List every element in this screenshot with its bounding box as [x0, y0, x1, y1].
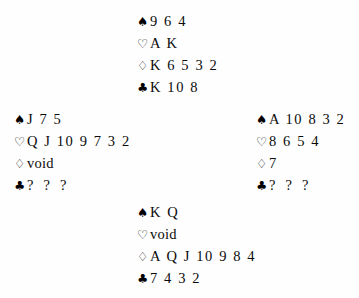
- south-spades: K Q: [150, 205, 179, 220]
- north-clubs: K 10 8: [150, 80, 199, 95]
- hand-west: ♠ J 7 5 ♡ Q J 10 9 7 3 2 ♢ void ♣ ? ? ?: [14, 112, 131, 200]
- west-diamonds: void: [27, 156, 54, 171]
- club-icon: ♣: [137, 82, 150, 95]
- south-club-line: ♣ 7 4 3 2: [137, 271, 256, 293]
- east-club-line: ♣ ? ? ?: [256, 178, 345, 200]
- east-diamond-line: ♢ 7: [256, 156, 345, 178]
- north-spade-line: ♠ 9 6 4: [137, 14, 218, 36]
- diamond-icon: ♢: [137, 251, 150, 264]
- hand-south: ♠ K Q ♡ void ♢ A Q J 10 9 8 4 ♣ 7 4 3 2: [137, 205, 256, 293]
- south-heart-line: ♡ void: [137, 227, 256, 249]
- west-spade-line: ♠ J 7 5: [14, 112, 131, 134]
- hand-east: ♠ A 10 8 3 2 ♡ 8 6 5 4 ♢ 7 ♣ ? ? ?: [256, 112, 345, 200]
- heart-icon: ♡: [256, 136, 269, 149]
- east-spade-line: ♠ A 10 8 3 2: [256, 112, 345, 134]
- south-clubs: 7 4 3 2: [150, 271, 201, 286]
- club-icon: ♣: [256, 180, 269, 193]
- diamond-icon: ♢: [14, 158, 27, 171]
- south-spade-line: ♠ K Q: [137, 205, 256, 227]
- heart-icon: ♡: [14, 136, 27, 149]
- heart-icon: ♡: [137, 229, 150, 242]
- spade-icon: ♠: [137, 16, 150, 29]
- north-hearts: A K: [150, 36, 179, 51]
- east-spades: A 10 8 3 2: [269, 112, 345, 127]
- north-diamond-line: ♢ K 6 5 3 2: [137, 58, 218, 80]
- north-diamonds: K 6 5 3 2: [150, 58, 218, 73]
- south-diamonds: A Q J 10 9 8 4: [150, 249, 256, 264]
- north-club-line: ♣ K 10 8: [137, 80, 218, 102]
- east-diamonds: 7: [269, 156, 278, 171]
- hand-north: ♠ 9 6 4 ♡ A K ♢ K 6 5 3 2 ♣ K 10 8: [137, 14, 218, 102]
- spade-icon: ♠: [137, 207, 150, 220]
- spade-icon: ♠: [256, 114, 269, 127]
- diamond-icon: ♢: [256, 158, 269, 171]
- spade-icon: ♠: [14, 114, 27, 127]
- east-hearts: 8 6 5 4: [269, 134, 320, 149]
- diamond-icon: ♢: [137, 60, 150, 73]
- south-hearts: void: [150, 227, 177, 242]
- east-clubs: ? ? ?: [269, 178, 312, 193]
- south-diamond-line: ♢ A Q J 10 9 8 4: [137, 249, 256, 271]
- bridge-deal-diagram: ♠ 9 6 4 ♡ A K ♢ K 6 5 3 2 ♣ K 10 8 ♠ J 7…: [0, 0, 359, 298]
- club-icon: ♣: [14, 180, 27, 193]
- east-heart-line: ♡ 8 6 5 4: [256, 134, 345, 156]
- west-spades: J 7 5: [27, 112, 62, 127]
- west-club-line: ♣ ? ? ?: [14, 178, 131, 200]
- north-spades: 9 6 4: [150, 14, 187, 29]
- club-icon: ♣: [137, 273, 150, 286]
- west-heart-line: ♡ Q J 10 9 7 3 2: [14, 134, 131, 156]
- north-heart-line: ♡ A K: [137, 36, 218, 58]
- west-hearts: Q J 10 9 7 3 2: [27, 134, 131, 149]
- west-diamond-line: ♢ void: [14, 156, 131, 178]
- heart-icon: ♡: [137, 38, 150, 51]
- west-clubs: ? ? ?: [27, 178, 70, 193]
